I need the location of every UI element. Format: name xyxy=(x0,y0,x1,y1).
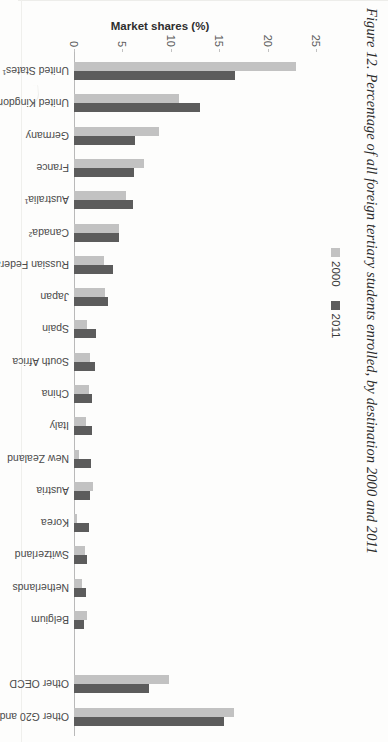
bar-group: Germany xyxy=(74,120,316,152)
legend-item: 2011 xyxy=(330,301,342,339)
bar-series-container: United States¹United Kingdom¹GermanyFran… xyxy=(74,52,316,736)
bar-2000 xyxy=(74,385,89,394)
bar-group: China xyxy=(74,378,316,410)
bar-2000 xyxy=(74,94,179,103)
bar-2000 xyxy=(74,224,119,233)
y-axis-tick-label: 0 xyxy=(68,41,80,47)
bar-2000 xyxy=(74,546,85,555)
category-label: China xyxy=(42,388,69,400)
category-label: France xyxy=(36,162,69,174)
bar-2011 xyxy=(74,297,108,306)
bar-group: Korea xyxy=(74,507,316,539)
bar-group: Spain xyxy=(74,313,316,345)
legend-item: 2000 xyxy=(330,248,342,287)
bar-group: Austria xyxy=(74,475,316,507)
category-label: Japan xyxy=(40,291,69,303)
plot-area: Market shares (%) 0510152025 United Stat… xyxy=(16,0,316,742)
bar-2011 xyxy=(74,200,133,209)
category-label: Switzerland xyxy=(15,549,69,561)
bar-2011 xyxy=(74,71,235,80)
bar-2000 xyxy=(74,256,104,265)
bar-2000 xyxy=(74,159,144,168)
bar-group: France xyxy=(74,152,316,184)
bar-group: Russian Federation xyxy=(74,249,316,281)
bar-2011 xyxy=(74,555,87,564)
bar-2000 xyxy=(74,514,77,523)
bar-2000 xyxy=(74,353,90,362)
bar-group: Belgium xyxy=(74,604,316,636)
bar-2011 xyxy=(74,103,200,112)
bar-2011 xyxy=(74,426,92,435)
bar-group: United States¹ xyxy=(74,55,316,87)
legend-swatch-icon xyxy=(332,301,341,310)
bar-2011 xyxy=(74,588,86,597)
bar-2000 xyxy=(74,191,126,200)
category-label: Other OECD xyxy=(9,678,69,690)
category-label: Belgium xyxy=(31,614,69,626)
category-label: New Zealand xyxy=(7,453,69,465)
bar-group: South Africa xyxy=(74,346,316,378)
bar-group: Canada² xyxy=(74,216,316,248)
bar-2000 xyxy=(74,450,79,459)
y-axis-tick-label: 25 xyxy=(310,35,322,47)
bar-2000 xyxy=(74,288,105,297)
category-label: Germany xyxy=(26,130,69,142)
bar-2000 xyxy=(74,417,86,426)
bar-2000 xyxy=(74,320,87,329)
bar-2011 xyxy=(74,620,84,629)
category-label: Other G20 and non-OECD xyxy=(0,711,69,723)
bar-2000 xyxy=(74,62,296,71)
y-axis-title: Market shares (%) xyxy=(90,20,230,32)
bar-2011 xyxy=(74,491,90,500)
bar-group: Netherlands xyxy=(74,572,316,604)
bar-2000 xyxy=(74,708,234,717)
bar-group: Japan xyxy=(74,281,316,313)
figure-container: Figure 12. Percentage of all foreign ter… xyxy=(0,0,388,742)
bar-group: United Kingdom¹ xyxy=(74,87,316,119)
category-label: Italy xyxy=(50,420,69,432)
legend-label: 2011 xyxy=(330,314,342,339)
chart-legend: 20002011 xyxy=(330,248,342,338)
y-axis-tick-label: 15 xyxy=(213,35,225,47)
category-label: Austria xyxy=(36,485,69,497)
chart-canvas: 0510152025 United States¹United Kingdom¹… xyxy=(74,52,316,736)
bar-2011 xyxy=(74,684,150,693)
bar-2011 xyxy=(74,136,135,145)
category-label: United Kingdom¹ xyxy=(0,97,69,109)
bar-group: Other OECD xyxy=(74,668,316,700)
bar-2011 xyxy=(74,523,89,532)
bar-2000 xyxy=(74,482,93,491)
category-label: Spain xyxy=(42,323,69,335)
bar-group: Italy xyxy=(74,410,316,442)
bar-2011 xyxy=(74,168,134,177)
bar-2000 xyxy=(74,579,82,588)
bar-group: Switzerland xyxy=(74,539,316,571)
bar-2000 xyxy=(74,675,169,684)
bar-2011 xyxy=(74,265,113,274)
legend-label: 2000 xyxy=(330,261,342,287)
bar-2011 xyxy=(74,717,224,726)
y-axis-tick-mark xyxy=(316,49,317,52)
bar-2000 xyxy=(74,127,159,136)
category-label: United States¹ xyxy=(2,65,69,77)
bar-2011 xyxy=(74,394,92,403)
category-label: South Africa xyxy=(12,356,69,368)
category-label: Korea xyxy=(41,517,69,529)
bar-group xyxy=(74,636,316,668)
figure-title: Figure 12. Percentage of all foreign ter… xyxy=(363,8,380,708)
y-axis-tick-label: 10 xyxy=(165,35,177,47)
y-axis-tick-label: 5 xyxy=(116,41,128,47)
category-label: Russian Federation xyxy=(0,259,69,271)
bar-2011 xyxy=(74,329,96,338)
category-label: Canada² xyxy=(29,227,69,239)
bar-2011 xyxy=(74,233,119,242)
bar-2011 xyxy=(74,459,91,468)
y-axis-tick-label: 20 xyxy=(262,35,274,47)
bar-group: Other G20 and non-OECD xyxy=(74,701,316,733)
legend-swatch-icon xyxy=(332,248,341,257)
bar-group: Australia¹ xyxy=(74,184,316,216)
bar-group: New Zealand xyxy=(74,442,316,474)
category-label: Australia¹ xyxy=(25,194,69,206)
category-label: Netherlands xyxy=(12,582,69,594)
bar-2011 xyxy=(74,362,95,371)
